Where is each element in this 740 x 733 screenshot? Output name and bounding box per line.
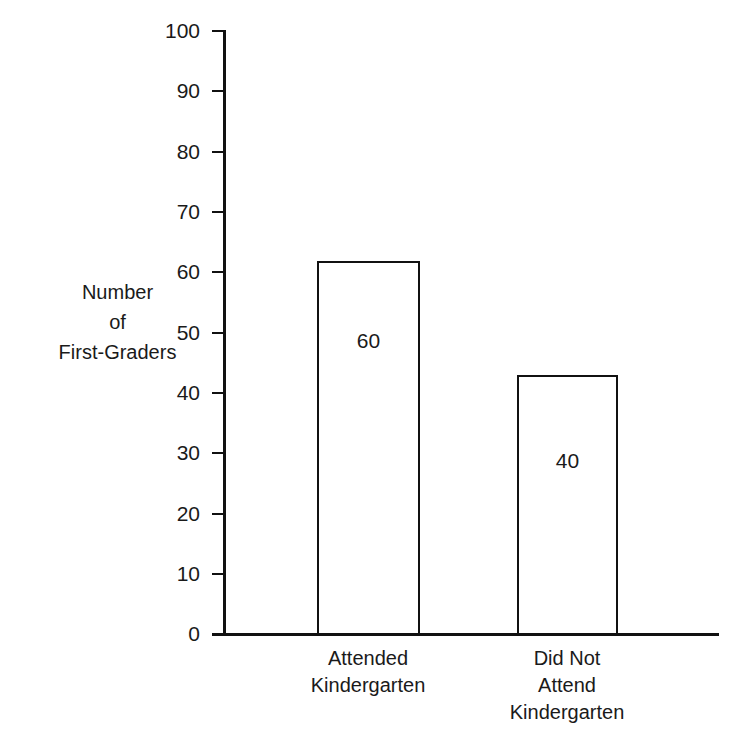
y-tick-label-10: 10: [120, 563, 200, 584]
y-axis-title-line-1: Number: [35, 277, 200, 307]
bar-value-label-attended-kindergarten: 60: [317, 330, 420, 351]
y-tick-100: [212, 30, 225, 32]
category-label-did-not-attend-kindergarten: Did Not Attend Kindergarten: [467, 645, 667, 726]
category-label-did-not-attend-line-2: Attend: [467, 672, 667, 699]
y-tick-80: [212, 151, 225, 153]
y-tick-label-20: 20: [120, 503, 200, 524]
bar-chart-figure: 100 90 80 70 60 50 40 30 20 10 0 Number …: [0, 0, 740, 733]
y-tick-30: [212, 452, 225, 454]
bar-value-label-did-not-attend-kindergarten: 40: [517, 450, 618, 471]
y-tick-90: [212, 90, 225, 92]
y-tick-70: [212, 211, 225, 213]
category-label-did-not-attend-line-1: Did Not: [467, 645, 667, 672]
bar-did-not-attend-kindergarten[interactable]: [517, 375, 618, 635]
y-tick-label-30: 30: [120, 442, 200, 463]
category-label-attended-line-1: Attended: [268, 645, 468, 672]
y-tick-40: [212, 392, 225, 394]
category-label-did-not-attend-line-3: Kindergarten: [467, 699, 667, 726]
y-tick-label-70: 70: [120, 201, 200, 222]
y-tick-label-40: 40: [120, 382, 200, 403]
y-tick-label-80: 80: [120, 141, 200, 162]
category-label-attended-line-2: Kindergarten: [268, 672, 468, 699]
y-axis-title: Number of First-Graders: [35, 277, 200, 367]
y-tick-label-100: 100: [120, 20, 200, 41]
category-label-attended-kindergarten: Attended Kindergarten: [268, 645, 468, 699]
bar-attended-kindergarten[interactable]: [317, 261, 420, 635]
y-tick-60: [212, 271, 225, 273]
y-tick-label-0: 0: [120, 623, 200, 644]
y-axis-title-line-2: of: [35, 307, 200, 337]
y-tick-50: [212, 332, 225, 334]
y-tick-20: [212, 513, 225, 515]
y-tick-label-90: 90: [120, 80, 200, 101]
x-axis-line: [212, 633, 719, 636]
y-axis-title-line-3: First-Graders: [35, 337, 200, 367]
y-tick-10: [212, 573, 225, 575]
